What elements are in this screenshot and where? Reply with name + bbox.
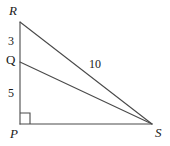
vertex-label-r: R bbox=[9, 4, 17, 17]
geometry-figure: R Q P S 3 5 10 bbox=[0, 0, 170, 146]
segment-rs bbox=[20, 22, 152, 124]
vertex-label-s: S bbox=[155, 126, 162, 139]
vertex-label-p: P bbox=[10, 127, 18, 140]
segment-length-qp: 5 bbox=[8, 87, 14, 99]
segment-length-rq: 3 bbox=[8, 35, 14, 47]
segment-qs bbox=[20, 62, 152, 124]
segment-length-rs: 10 bbox=[89, 58, 101, 70]
geometry-canvas bbox=[0, 0, 170, 146]
right-angle-marker bbox=[20, 113, 30, 124]
vertex-label-q: Q bbox=[6, 53, 15, 66]
